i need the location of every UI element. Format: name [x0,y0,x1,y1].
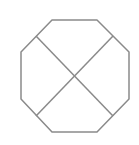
octagon-diagram [0,0,139,145]
